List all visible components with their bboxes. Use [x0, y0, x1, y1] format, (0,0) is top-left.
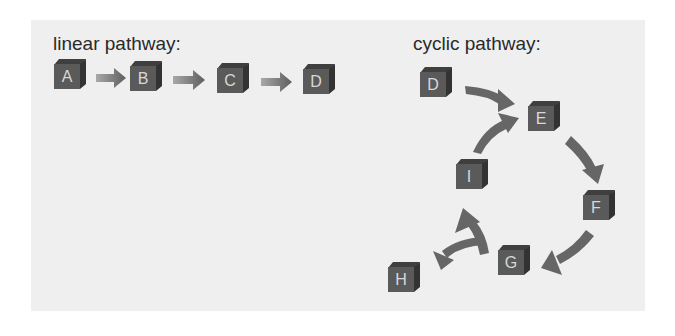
node-label: E — [528, 106, 554, 131]
cyclic-node-g: G — [498, 245, 530, 275]
cube-side — [524, 245, 530, 275]
node-label: C — [217, 68, 243, 93]
cyclic-node-d: D — [420, 67, 452, 97]
node-label: D — [420, 72, 446, 97]
arrow-b-c-icon — [173, 70, 205, 90]
arrows-layer — [0, 0, 675, 336]
arrow-c-d-icon — [261, 72, 292, 92]
cube-side — [329, 64, 335, 94]
cyclic-node-i: I — [456, 159, 488, 189]
node-label: G — [498, 250, 524, 275]
arrow-a-b-icon — [96, 68, 126, 88]
node-label: B — [130, 66, 156, 91]
arrow-e-f-icon — [565, 136, 596, 172]
cube-side — [243, 63, 249, 93]
cube-side — [482, 159, 488, 189]
cube-side — [414, 262, 420, 292]
cyclic-node-h: H — [388, 262, 420, 292]
node-label: I — [456, 164, 482, 189]
linear-node-d: D — [303, 64, 335, 94]
cube-side — [156, 61, 162, 91]
cyclic-node-e: E — [528, 101, 560, 131]
node-label: H — [388, 267, 414, 292]
cube-side — [80, 59, 86, 89]
cube-side — [609, 190, 615, 220]
cube-side — [554, 101, 560, 131]
arrow-i-e-icon — [473, 120, 508, 154]
node-label: D — [303, 69, 329, 94]
node-label: F — [583, 195, 609, 220]
cyclic-node-f: F — [583, 190, 615, 220]
arrow-f-g-icon — [556, 230, 594, 264]
cube-side — [446, 67, 452, 97]
linear-node-b: B — [130, 61, 162, 91]
linear-node-c: C — [217, 63, 249, 93]
node-label: A — [54, 64, 80, 89]
linear-node-a: A — [54, 59, 86, 89]
